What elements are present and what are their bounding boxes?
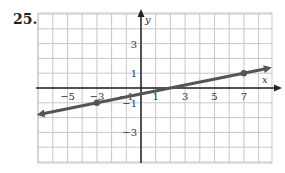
y-tick-label: 1 <box>131 68 137 79</box>
x-axis-label: x <box>262 74 268 85</box>
y-axis-label: y <box>144 14 151 25</box>
graph-line <box>43 69 266 114</box>
x-tick-label: 5 <box>211 91 217 102</box>
y-tick-label: −1 <box>122 98 137 109</box>
x-tick-label: −5 <box>60 91 75 102</box>
x-axis-arrow-icon <box>274 85 282 92</box>
coordinate-graph: xy−5−3−1135731−1−3 <box>0 0 285 173</box>
line-arrow-right-icon <box>263 65 272 73</box>
x-tick-label: 7 <box>241 91 247 102</box>
x-tick-label: 3 <box>182 91 188 102</box>
data-point <box>241 70 247 76</box>
data-point <box>94 100 100 106</box>
y-tick-label: 3 <box>131 39 137 50</box>
y-tick-label: −3 <box>122 127 137 138</box>
